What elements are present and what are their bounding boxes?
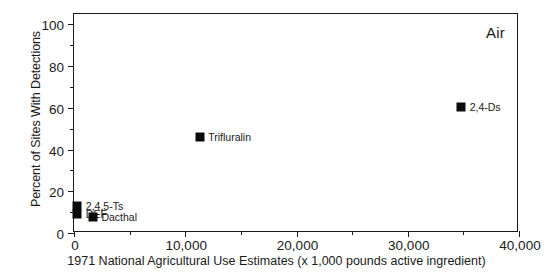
x-axis-tick: 30,000 bbox=[408, 231, 409, 237]
y-axis-tick-label: 80 bbox=[49, 60, 64, 75]
plot-area: Air 020406080100010,00020,00030,00040,00… bbox=[73, 13, 518, 232]
data-point-label: Dacthal bbox=[101, 211, 137, 223]
y-axis-minor-tick bbox=[70, 45, 74, 46]
y-axis-tick-label: 100 bbox=[41, 18, 64, 33]
y-axis-minor-tick bbox=[70, 87, 74, 88]
x-axis-tick-label: 40,000 bbox=[499, 238, 540, 253]
x-axis-tick: 20,000 bbox=[297, 231, 298, 237]
y-axis-tick-label: 60 bbox=[49, 101, 64, 116]
x-axis-tick-label: 0 bbox=[71, 238, 79, 253]
y-axis-tick: 40 bbox=[68, 150, 74, 151]
y-axis-tick-label: 40 bbox=[49, 143, 64, 158]
x-axis-minor-tick bbox=[130, 231, 131, 235]
y-axis-minor-tick bbox=[70, 129, 74, 130]
x-axis-title: 1971 National Agricultural Use Estimates… bbox=[0, 254, 553, 268]
x-axis-minor-tick bbox=[352, 231, 353, 235]
data-point-marker[interactable] bbox=[88, 213, 97, 222]
y-axis-tick: 80 bbox=[68, 66, 74, 67]
y-axis-tick: 100 bbox=[68, 24, 74, 25]
data-point-marker[interactable] bbox=[457, 102, 466, 111]
y-axis-title: Percent of Sites With Detections bbox=[29, 4, 43, 234]
x-axis-tick-label: 30,000 bbox=[388, 238, 429, 253]
chart-figure: Percent of Sites With Detections Air 020… bbox=[0, 0, 553, 277]
x-axis-tick-label: 10,000 bbox=[166, 238, 207, 253]
x-axis-minor-tick bbox=[241, 231, 242, 235]
data-point-marker[interactable] bbox=[73, 210, 82, 219]
y-axis-minor-tick bbox=[70, 170, 74, 171]
x-axis-tick: 10,000 bbox=[185, 231, 186, 237]
x-axis-minor-tick bbox=[463, 231, 464, 235]
panel-title: Air bbox=[486, 24, 505, 41]
y-axis-tick: 20 bbox=[68, 191, 74, 192]
x-axis-tick: 40,000 bbox=[519, 231, 520, 237]
y-axis-tick-label: 0 bbox=[56, 227, 64, 242]
y-axis-tick: 60 bbox=[68, 108, 74, 109]
y-axis-tick-label: 20 bbox=[49, 185, 64, 200]
data-point-label: 2,4-Ds bbox=[470, 101, 501, 113]
data-point-label: Trifluralin bbox=[208, 131, 251, 143]
x-axis-tick: 0 bbox=[74, 231, 75, 237]
data-point-marker[interactable] bbox=[195, 133, 204, 142]
x-axis-tick-label: 20,000 bbox=[277, 238, 318, 253]
